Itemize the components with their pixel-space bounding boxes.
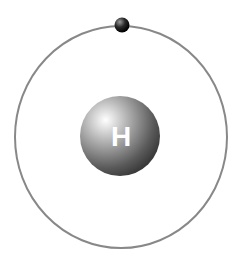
nucleus-symbol: H bbox=[111, 121, 131, 152]
electron bbox=[115, 18, 130, 33]
hydrogen-atom-diagram: H bbox=[0, 0, 243, 266]
